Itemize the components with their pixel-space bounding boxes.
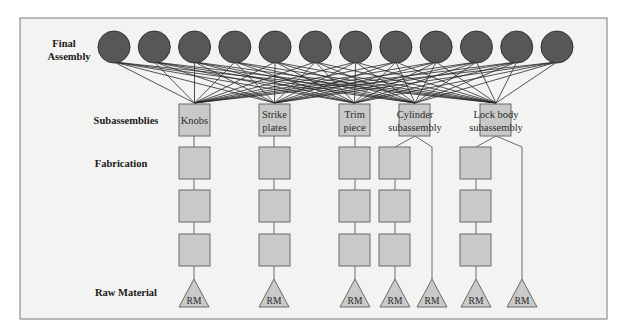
final-assembly-node: [219, 31, 251, 63]
final-assembly-node: [501, 31, 533, 63]
level-label-final-assembly-line1: Final: [52, 38, 75, 49]
final-assembly-node: [259, 31, 291, 63]
final-assembly-node: [179, 31, 211, 63]
subassembly-label-line2: subassembly: [469, 122, 523, 133]
svg-text:RM: RM: [515, 296, 530, 306]
svg-text:RM: RM: [388, 296, 403, 306]
level-label-raw-material: Raw Material: [95, 287, 157, 298]
svg-text:RM: RM: [187, 296, 202, 306]
subassembly-label-line2: subassembly: [388, 122, 442, 133]
subassembly-label-line1: Trim: [344, 109, 365, 120]
subassembly-label: Knobs: [181, 115, 208, 126]
bill-of-materials-diagram: Final Assembly Subassemblies Fabrication…: [0, 0, 626, 336]
subassembly-label-line2: plates: [262, 122, 287, 133]
subassembly-trim-piece: Trim piece: [339, 104, 370, 136]
final-assembly-node: [380, 31, 412, 63]
subassembly-label-line2: piece: [343, 122, 365, 133]
subassembly-label-line1: Lock body: [473, 109, 519, 120]
subassembly-label-line1: Cylinder: [397, 109, 434, 120]
final-assembly-node: [541, 31, 573, 63]
level-label-fabrication: Fabrication: [95, 158, 148, 169]
level-label-subassemblies: Subassemblies: [94, 115, 159, 126]
final-assembly-node: [98, 31, 130, 63]
final-assembly-node: [340, 31, 372, 63]
final-assembly-node: [138, 31, 170, 63]
svg-text:RM: RM: [348, 296, 363, 306]
final-assembly-node: [420, 31, 452, 63]
subassembly-label-line1: Strike: [262, 109, 287, 120]
svg-text:RM: RM: [267, 296, 282, 306]
final-assembly-node: [299, 31, 331, 63]
subassembly-knobs: Knobs: [179, 104, 210, 136]
level-label-final-assembly-line2: Assembly: [47, 51, 91, 62]
svg-text:RM: RM: [469, 296, 484, 306]
svg-text:RM: RM: [425, 296, 440, 306]
final-assembly-node: [460, 31, 492, 63]
subassembly-strike-plates: Strike plates: [259, 104, 290, 136]
